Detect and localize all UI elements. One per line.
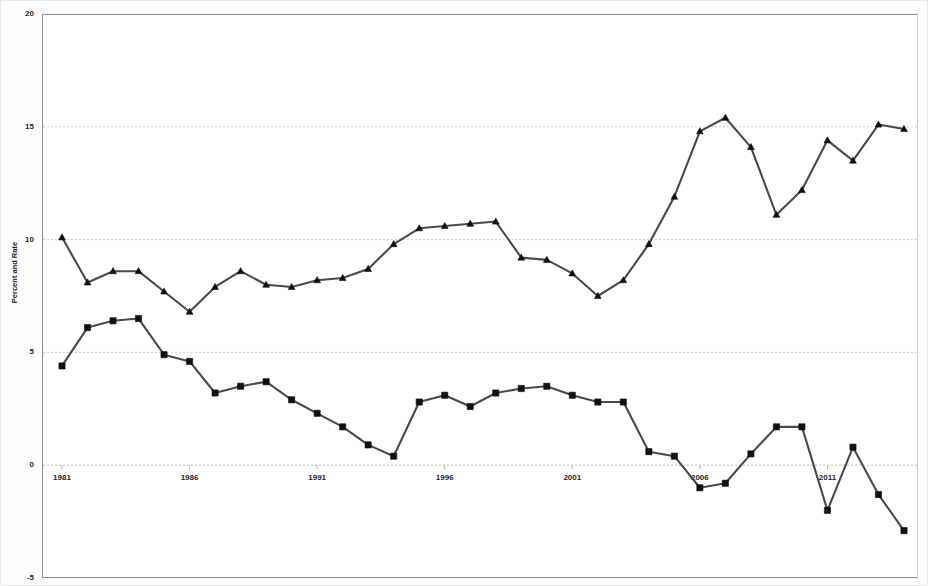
data-point-marker xyxy=(799,424,805,430)
data-point-marker xyxy=(467,403,473,409)
data-point-marker xyxy=(824,507,830,513)
data-point-marker xyxy=(135,315,141,321)
data-point-marker xyxy=(237,268,244,274)
data-point-marker xyxy=(340,424,346,430)
data-point-marker xyxy=(544,383,550,389)
data-point-marker xyxy=(391,453,397,459)
data-point-marker xyxy=(263,379,269,385)
chart-container: Percent and Rate 20151050-5 198119861991… xyxy=(0,0,928,586)
data-series-group xyxy=(59,114,908,534)
chart-svg xyxy=(0,0,928,586)
data-point-marker xyxy=(84,324,90,330)
data-point-marker xyxy=(493,390,499,396)
data-point-marker xyxy=(442,392,448,398)
data-point-marker xyxy=(850,444,856,450)
series-lower xyxy=(59,315,907,533)
data-point-marker xyxy=(59,234,66,240)
data-point-marker xyxy=(212,390,218,396)
series-upper xyxy=(59,114,908,314)
data-point-marker xyxy=(186,358,192,364)
data-point-marker xyxy=(671,193,678,199)
data-point-marker xyxy=(59,363,65,369)
data-point-marker xyxy=(569,392,575,398)
data-point-marker xyxy=(110,318,116,324)
data-point-marker xyxy=(824,137,831,143)
data-point-marker xyxy=(875,491,881,497)
data-point-marker xyxy=(697,485,703,491)
data-point-marker xyxy=(646,449,652,455)
data-point-marker xyxy=(238,383,244,389)
data-point-marker xyxy=(748,451,754,457)
data-point-marker xyxy=(365,442,371,448)
gridlines xyxy=(43,14,917,578)
data-point-marker xyxy=(671,453,677,459)
data-point-marker xyxy=(773,424,779,430)
data-point-marker xyxy=(416,399,422,405)
data-point-marker xyxy=(620,399,626,405)
data-point-marker xyxy=(289,397,295,403)
data-point-marker xyxy=(722,114,729,120)
data-point-marker xyxy=(901,528,907,534)
data-point-marker xyxy=(518,385,524,391)
data-point-marker xyxy=(722,480,728,486)
data-point-marker xyxy=(161,352,167,358)
data-point-marker xyxy=(595,399,601,405)
data-point-marker xyxy=(314,410,320,416)
